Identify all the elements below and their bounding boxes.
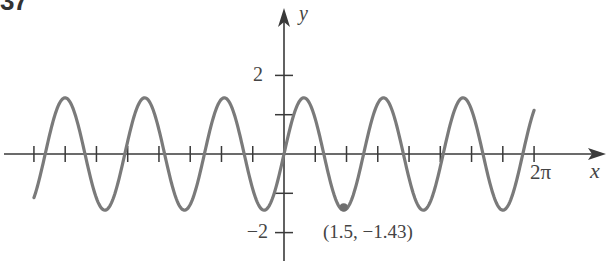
x-axis-label: x bbox=[589, 158, 600, 183]
y-tick-label-neg2: −2 bbox=[247, 220, 268, 242]
sine-graph: y x 2π 2 −2 (1.5, −1.43) bbox=[0, 0, 608, 261]
y-axis-label: y bbox=[297, 2, 308, 25]
minimum-point-marker bbox=[340, 203, 348, 211]
minimum-point-annotation: (1.5, −1.43) bbox=[323, 221, 413, 243]
x-tick-label-2pi: 2π bbox=[530, 160, 552, 184]
y-tick-label-2: 2 bbox=[253, 63, 263, 85]
axes bbox=[4, 8, 606, 261]
